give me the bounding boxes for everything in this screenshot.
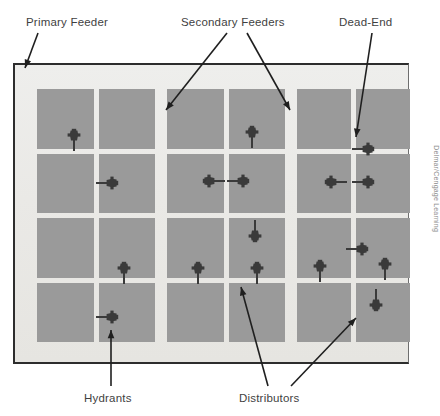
distributors-leader-l xyxy=(241,287,268,386)
hydrant-icon xyxy=(246,126,259,148)
hydrant-icon xyxy=(203,175,225,188)
hydrant-icon xyxy=(251,262,264,284)
hydrant-icon xyxy=(352,176,374,189)
hydrant-icon xyxy=(192,262,205,284)
arrowhead-icon xyxy=(283,101,290,110)
arrowhead-icon xyxy=(240,287,246,296)
hydrant-icon xyxy=(314,260,327,282)
hydrant-icon xyxy=(352,143,374,156)
hydrant-icon xyxy=(370,289,383,311)
secondary-feeder-leader-l xyxy=(166,33,227,110)
hydrant-icon xyxy=(379,258,392,280)
hydrant-icon xyxy=(96,311,118,324)
hydrant-icon xyxy=(227,175,249,188)
hydrant-icon xyxy=(96,177,118,190)
credit-line: Delmar/Cengage Learning xyxy=(433,145,440,232)
hydrant-icon xyxy=(346,243,368,256)
arrowhead-icon xyxy=(108,330,115,338)
arrowhead-icon xyxy=(354,128,361,137)
hydrant-icon xyxy=(249,220,262,242)
hydrant-symbol-group xyxy=(68,126,392,324)
arrowhead-icon xyxy=(25,59,31,68)
hydrant-icon xyxy=(118,262,131,284)
secondary-feeder-leader-r xyxy=(247,33,290,110)
hydrant-icon xyxy=(68,129,81,151)
hydrant-icon xyxy=(325,176,347,189)
leader-line-group xyxy=(25,33,372,386)
dead-end-leader xyxy=(356,33,372,137)
distributors-leader-r xyxy=(291,318,356,386)
